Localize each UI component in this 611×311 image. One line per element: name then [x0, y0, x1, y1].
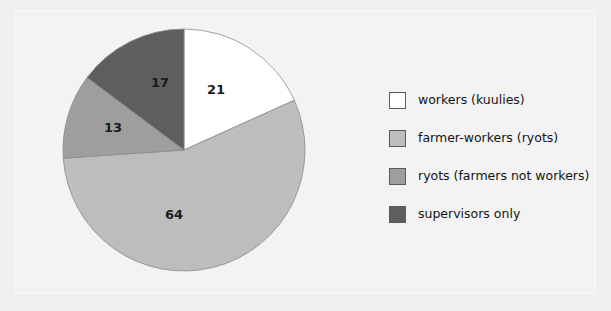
legend-item-farmer-workers-ryots[interactable]: farmer-workers (ryots) [389, 126, 601, 150]
chart-legend: workers (kuulies) farmer-workers (ryots)… [389, 88, 601, 240]
legend-swatch-icon [389, 130, 406, 147]
pie-slice-value-label: 13 [104, 120, 122, 135]
legend-item-workers-kuulies[interactable]: workers (kuulies) [389, 88, 601, 112]
legend-item-supervisors-only[interactable]: supervisors only [389, 202, 601, 226]
legend-swatch-icon [389, 92, 406, 109]
pie-slice-group [63, 29, 305, 271]
chart-screenshot: 21641317 workers (kuulies) farmer-worker… [0, 0, 611, 311]
legend-item-label: supervisors only [418, 208, 520, 221]
legend-item-label: workers (kuulies) [418, 94, 525, 107]
pie-slice-value-label: 21 [207, 82, 225, 97]
legend-swatch-icon [389, 206, 406, 223]
pie-slice-value-label: 64 [165, 207, 183, 222]
legend-item-label: farmer-workers (ryots) [418, 132, 558, 145]
pie-slice-value-label: 17 [151, 75, 169, 90]
legend-item-label: ryots (farmers not workers) [418, 170, 589, 183]
legend-swatch-icon [389, 168, 406, 185]
legend-item-ryots-farmers-not-workers[interactable]: ryots (farmers not workers) [389, 164, 601, 188]
